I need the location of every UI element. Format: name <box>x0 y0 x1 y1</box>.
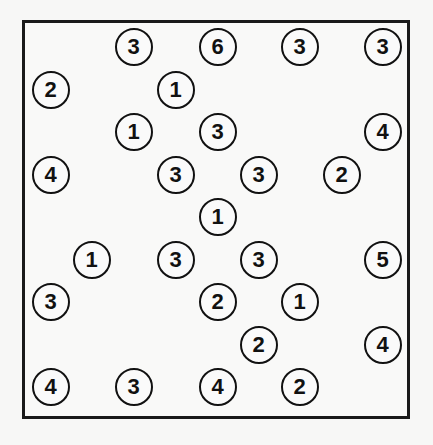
island-r0-c6[interactable]: 3 <box>281 28 319 66</box>
island-r6-c6[interactable]: 1 <box>281 283 319 321</box>
island-r1-c3[interactable]: 1 <box>157 71 195 109</box>
island-r8-c4[interactable]: 4 <box>199 368 237 406</box>
island-r5-c3[interactable]: 3 <box>157 241 195 279</box>
island-r5-c8[interactable]: 5 <box>364 241 402 279</box>
island-r6-c0[interactable]: 3 <box>32 283 70 321</box>
island-r0-c2[interactable]: 3 <box>115 28 153 66</box>
island-r8-c6[interactable]: 2 <box>281 368 319 406</box>
island-r2-c2[interactable]: 1 <box>115 113 153 151</box>
island-r2-c8[interactable]: 4 <box>364 113 402 151</box>
island-r2-c4[interactable]: 3 <box>199 113 237 151</box>
island-r7-c5[interactable]: 2 <box>240 326 278 364</box>
island-r8-c0[interactable]: 4 <box>32 368 70 406</box>
island-r0-c4[interactable]: 6 <box>199 28 237 66</box>
island-r3-c5[interactable]: 3 <box>240 156 278 194</box>
island-r4-c4[interactable]: 1 <box>199 198 237 236</box>
island-r3-c0[interactable]: 4 <box>32 156 70 194</box>
island-r7-c8[interactable]: 4 <box>364 326 402 364</box>
island-r6-c4[interactable]: 2 <box>199 283 237 321</box>
island-r3-c7[interactable]: 2 <box>323 156 361 194</box>
island-r1-c0[interactable]: 2 <box>32 71 70 109</box>
island-r0-c8[interactable]: 3 <box>364 28 402 66</box>
island-r8-c2[interactable]: 3 <box>115 368 153 406</box>
island-r5-c5[interactable]: 3 <box>240 241 278 279</box>
island-r5-c1[interactable]: 1 <box>73 241 111 279</box>
island-r3-c3[interactable]: 3 <box>157 156 195 194</box>
